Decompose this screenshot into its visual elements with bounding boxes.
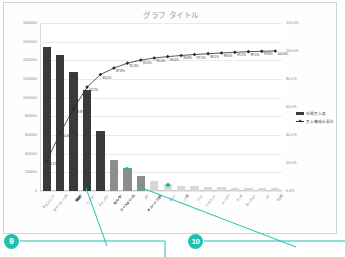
y-axis-tick: 0	[35, 189, 37, 193]
x-axis-tick-label: プリン	[194, 193, 203, 203]
cumulative-line-series[interactable]	[40, 23, 282, 191]
x-axis-tick-label: ヨーグルト	[244, 193, 257, 208]
x-axis-labels: チョコレートポテトチップス飲料水クッキーキャンディせんべいアイスクリームグミチュ…	[40, 193, 282, 233]
x-axis-tick-label: ビスケット	[204, 193, 217, 208]
y-axis-tick: 1200000	[23, 77, 37, 81]
data-label: 99.8%	[264, 52, 273, 56]
cumulative-line	[47, 51, 276, 161]
y-axis-tick: 600000	[25, 133, 37, 137]
x-axis-tick-label: 飲料水	[73, 193, 82, 203]
secondary-y-axis-tick: 40.0%	[286, 133, 297, 137]
data-label: 91.3%	[129, 64, 138, 68]
legend-item-line[interactable]: 売上構成比累計	[296, 119, 345, 124]
data-label: 95.0%	[156, 59, 165, 63]
callout-box-9	[20, 241, 165, 257]
x-axis-tick-label: クッキー	[85, 193, 96, 205]
x-axis-tick-label: その他	[275, 193, 284, 203]
secondary-y-axis-tick: 80.0%	[286, 77, 297, 81]
chart-sheet: グラフ タイトル 1800000160000014000001200000100…	[3, 2, 337, 234]
legend-item-bar[interactable]: 年間売上高	[296, 111, 345, 116]
secondary-y-axis-tick: 0.0%	[286, 189, 295, 193]
data-label: 74.2%	[89, 88, 98, 92]
screenshot-root: グラフ タイトル 1800000160000014000001200000100…	[0, 0, 345, 257]
y-axis-tick: 1400000	[23, 58, 37, 62]
chart-legend[interactable]: 年間売上高 売上構成比累計	[296, 111, 345, 126]
legend-line-marker-icon	[296, 120, 304, 123]
legend-line-label: 売上構成比累計	[306, 119, 334, 124]
data-label: 100.0%	[277, 52, 288, 56]
plot-area: 1800000160000014000001200000100000080000…	[40, 23, 282, 191]
data-label: 87.8%	[116, 69, 125, 73]
gridline	[40, 191, 282, 192]
data-label: 96.8%	[183, 56, 192, 60]
y-axis-tick: 1000000	[23, 96, 37, 100]
legend-bar-swatch-icon	[296, 112, 304, 115]
y-axis-tick: 400000	[25, 152, 37, 156]
y-axis-tick: 200000	[25, 170, 37, 174]
data-label: 99.1%	[237, 53, 246, 57]
callout-badge-10[interactable]: 10	[188, 234, 203, 249]
secondary-y-axis-tick: 120.0%	[286, 21, 299, 25]
legend-bar-label: 年間売上高	[306, 111, 326, 116]
x-axis-tick-label: せんべい	[112, 193, 123, 205]
data-label: 98.1%	[210, 55, 219, 59]
y-axis-tick: 1600000	[23, 40, 37, 44]
callout-badge-9[interactable]: 9	[4, 234, 19, 249]
pareto-chart[interactable]: グラフ タイトル 1800000160000014000001200000100…	[4, 3, 338, 233]
x-axis-tick-label: ゼリー	[167, 193, 176, 203]
data-label: 58.8%	[76, 110, 85, 114]
x-axis-tick-label: グミ	[142, 193, 150, 201]
x-axis-tick-label: キャンディ	[96, 193, 109, 208]
chart-title[interactable]: グラフ タイトル	[4, 9, 338, 20]
data-label: 99.5%	[250, 53, 259, 57]
x-axis-tick-label: パイ	[263, 193, 271, 201]
x-axis-tick-label: ドーナツ	[219, 193, 230, 205]
data-label: 83.2%	[103, 76, 112, 80]
x-axis-tick-label: ケーキ	[234, 193, 243, 203]
secondary-y-axis-tick: 60.0%	[286, 105, 297, 109]
y-axis-tick: 800000	[25, 114, 37, 118]
data-label: 93.5%	[143, 61, 152, 65]
y-axis-tick: 1800000	[23, 21, 37, 25]
secondary-y-axis-tick: 20.0%	[286, 161, 297, 165]
data-label: 96.0%	[170, 58, 179, 62]
data-label: 21.2%	[49, 162, 58, 166]
data-label: 97.5%	[197, 56, 206, 60]
data-label: 41.4%	[62, 134, 71, 138]
x-axis-tick-label: ナッツ類	[179, 193, 190, 205]
data-label: 98.6%	[224, 54, 233, 58]
